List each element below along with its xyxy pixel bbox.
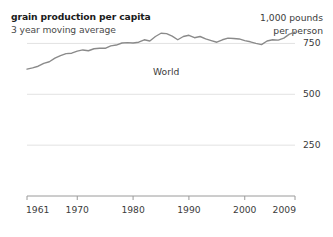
x-axis-tick-label: 1970 (66, 204, 89, 215)
plot-area (0, 0, 333, 237)
x-axis (27, 196, 295, 200)
series-world-line (27, 32, 295, 69)
x-axis-tick-label: 1961 (26, 204, 49, 215)
y-axis-tick-label: 500 (303, 88, 321, 99)
chart-container: grain production per capita 3 year movin… (0, 0, 333, 237)
x-axis-tick-label: 2000 (233, 204, 256, 215)
axis-line (27, 196, 295, 200)
x-axis-tick-label: 2009 (273, 204, 296, 215)
gridlines (27, 43, 295, 145)
data-line-world (27, 32, 295, 69)
y-axis-tick-label: 750 (303, 37, 321, 48)
series-inline-label: World (153, 66, 179, 77)
y-axis-tick-label: 250 (303, 139, 321, 150)
x-axis-tick-label: 1980 (121, 204, 144, 215)
x-axis-tick-label: 1990 (177, 204, 200, 215)
